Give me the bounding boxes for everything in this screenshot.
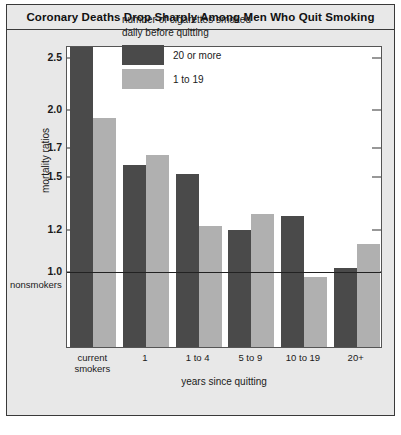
bar-1-series-1: [146, 155, 169, 347]
x-axis-category-label: 5 to 9: [224, 352, 277, 363]
nonsmokers-label: nonsmokers: [10, 279, 62, 290]
legend-item: 1 to 19: [122, 69, 302, 89]
bar-2-series-0: [176, 174, 199, 347]
x-axis-category-label: current smokers: [66, 352, 119, 374]
y-axis-tick-mark-right: [372, 229, 381, 230]
y-axis-tick-label: 2.5: [47, 51, 62, 63]
y-axis-tick-mark-right: [372, 110, 381, 111]
chart-figure: Coronary Deaths Drop Sharply Among Men W…: [0, 0, 401, 435]
legend-label: 20 or more: [173, 50, 221, 61]
legend-swatch: [122, 45, 164, 65]
y-axis-tick-mark-right: [372, 177, 381, 178]
bar-0-series-0: [70, 47, 93, 347]
bar-4-series-0: [281, 216, 304, 347]
bar-3-series-1: [251, 214, 274, 347]
legend-item: 20 or more: [122, 45, 302, 65]
legend-label: 1 to 19: [173, 74, 204, 85]
x-axis-category-label: 1: [119, 352, 172, 363]
bar-5-series-0: [334, 268, 357, 347]
bar-1-series-0: [123, 165, 146, 347]
bar-3-series-0: [228, 230, 251, 347]
legend-entries: 20 or more1 to 19: [122, 45, 302, 89]
y-axis-tick-label: 1.7: [47, 141, 62, 153]
bar-5-series-1: [357, 244, 380, 347]
chart-legend: number of cigarettes smoked daily before…: [122, 14, 302, 93]
legend-title: number of cigarettes smoked daily before…: [122, 14, 302, 39]
x-axis-labels: current smokers11 to 45 to 910 to 1920+y…: [66, 352, 382, 392]
y-axis-tick-mark-right: [372, 57, 381, 58]
y-axis-labels: 2.52.01.71.51.21.0: [18, 46, 62, 348]
bar-2-series-1: [199, 226, 222, 347]
x-axis-category-label: 20+: [329, 352, 382, 363]
y-axis-tick-label: 1.5: [47, 170, 62, 182]
y-axis-tick-label: 1.0: [47, 265, 62, 277]
bar-0-series-1: [93, 118, 116, 347]
y-axis-tick-mark-right: [372, 148, 381, 149]
reference-line-nonsmokers: [67, 272, 381, 273]
x-axis-title: years since quitting: [66, 376, 382, 387]
y-axis-tick-label: 1.2: [47, 223, 62, 235]
bar-4-series-1: [304, 277, 327, 347]
x-axis-category-label: 10 to 19: [277, 352, 330, 363]
legend-swatch: [122, 69, 164, 89]
x-axis-category-label: 1 to 4: [171, 352, 224, 363]
y-axis-tick-label: 2.0: [47, 103, 62, 115]
